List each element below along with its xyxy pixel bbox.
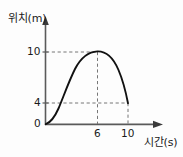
x-tick-label-10: 10 — [121, 127, 134, 139]
y-axis-label: 위치(m) — [8, 9, 46, 25]
x-tick-label-6: 6 — [94, 127, 101, 139]
y-tick-label-10: 10 — [27, 45, 40, 57]
y-axis — [42, 16, 49, 125]
x-axis — [45, 121, 163, 128]
origin-label: 0 — [34, 117, 41, 129]
position-curve — [46, 51, 128, 124]
y-tick-label-4: 4 — [34, 96, 41, 108]
position-time-graph-figure: 위치(m) 시간(s) 10 4 0 6 10 — [0, 0, 183, 157]
x-axis-label: 시간(s) — [144, 133, 177, 149]
